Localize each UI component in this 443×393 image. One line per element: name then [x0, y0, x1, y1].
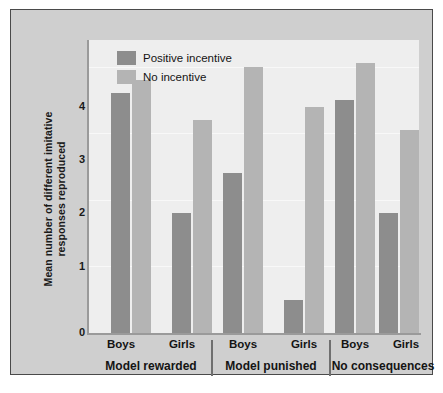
- x-axis-line: [87, 333, 421, 335]
- x-label-model-rewarded-boys: Boys: [107, 338, 135, 350]
- legend-swatch-no-incentive: [117, 70, 136, 84]
- plot-area: Positive incentive No incentive: [89, 40, 419, 333]
- chart-figure: Positive incentive No incentive 4 3 2 1 …: [0, 0, 443, 393]
- bar-model-rewarded-boys-no-incentive: [132, 80, 151, 333]
- bar-model-punished-girls-no-incentive: [305, 107, 324, 333]
- x-label-no-consequences-boys: Boys: [341, 338, 369, 350]
- bar-no-consequences-girls-no-incentive: [400, 130, 419, 333]
- bar-model-punished-girls-positive-incentive: [284, 300, 303, 333]
- y-axis-line: [87, 40, 89, 335]
- x-label-model-rewarded-girls: Girls: [169, 338, 195, 350]
- x-label-model-punished-boys: Boys: [229, 338, 257, 350]
- x-label-no-consequences-girls: Girls: [393, 338, 419, 350]
- bar-no-consequences-boys-no-incentive: [356, 63, 375, 333]
- y-tick-label-4: 4: [65, 100, 85, 112]
- bar-model-rewarded-girls-positive-incentive: [172, 213, 191, 333]
- x-group-label-model-rewarded: Model rewarded: [105, 359, 196, 373]
- bar-no-consequences-boys-positive-incentive: [335, 100, 354, 333]
- bar-model-punished-boys-no-incentive: [244, 67, 263, 333]
- bar-model-rewarded-boys-positive-incentive: [111, 93, 130, 333]
- x-axis-sub-labels: Boys Girls Boys Girls Boys Girls: [11, 338, 443, 356]
- legend-item-no-incentive: No incentive: [117, 69, 232, 84]
- bar-model-punished-boys-positive-incentive: [223, 173, 242, 333]
- x-axis-group-labels: Model rewarded Model punished No consequ…: [11, 359, 443, 379]
- x-label-model-punished-girls: Girls: [291, 338, 317, 350]
- bar-model-rewarded-girls-no-incentive: [193, 120, 212, 333]
- bar-no-consequences-girls-positive-incentive: [379, 213, 398, 333]
- chart-legend: Positive incentive No incentive: [117, 50, 232, 84]
- y-tick-label-3: 3: [65, 153, 85, 165]
- legend-label-no-incentive: No incentive: [143, 71, 206, 83]
- y-axis-title: Mean number of different imitative respo…: [42, 94, 68, 304]
- x-group-label-model-punished: Model punished: [225, 359, 316, 373]
- legend-swatch-positive-incentive: [117, 51, 136, 65]
- y-tick-label-0: 0: [65, 326, 85, 338]
- y-tick-label-1: 1: [65, 260, 85, 272]
- y-tick-label-2: 2: [65, 206, 85, 218]
- x-group-label-no-consequences: No consequences: [332, 359, 435, 373]
- legend-label-positive-incentive: Positive incentive: [143, 52, 232, 64]
- chart-panel: Positive incentive No incentive 4 3 2 1 …: [10, 9, 433, 375]
- legend-item-positive-incentive: Positive incentive: [117, 50, 232, 65]
